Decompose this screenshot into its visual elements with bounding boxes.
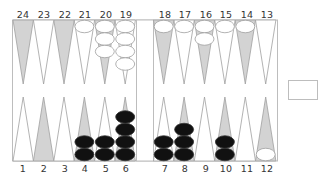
point-2[interactable] bbox=[33, 97, 53, 161]
black-checker-point-8[interactable] bbox=[175, 123, 194, 136]
point-23[interactable] bbox=[33, 20, 53, 84]
black-checker-point-7[interactable] bbox=[154, 136, 173, 149]
black-checker-point-6[interactable] bbox=[116, 123, 135, 136]
point-label-8: 8 bbox=[175, 163, 195, 174]
black-checker-point-10[interactable] bbox=[215, 136, 234, 149]
point-label-6: 6 bbox=[116, 163, 136, 174]
white-checker-point-14[interactable] bbox=[236, 20, 255, 33]
black-checker-point-7[interactable] bbox=[154, 148, 173, 161]
black-checker-point-6[interactable] bbox=[116, 148, 135, 161]
point-24[interactable] bbox=[13, 20, 33, 84]
point-13[interactable] bbox=[256, 20, 276, 84]
point-label-7: 7 bbox=[155, 163, 175, 174]
point-3[interactable] bbox=[54, 97, 74, 161]
white-checker-point-18[interactable] bbox=[154, 20, 173, 33]
white-checker-point-21[interactable] bbox=[75, 20, 94, 33]
black-checker-point-8[interactable] bbox=[175, 136, 194, 149]
white-checker-point-16[interactable] bbox=[195, 33, 214, 46]
point-11[interactable] bbox=[235, 97, 255, 161]
black-checker-point-6[interactable] bbox=[116, 136, 135, 149]
point-9[interactable] bbox=[194, 97, 214, 161]
point-label-10: 10 bbox=[216, 163, 236, 174]
point-22[interactable] bbox=[54, 20, 74, 84]
white-checker-point-19[interactable] bbox=[116, 58, 135, 71]
white-checker-point-20[interactable] bbox=[95, 45, 114, 58]
point-label-5: 5 bbox=[96, 163, 116, 174]
point-label-9: 9 bbox=[196, 163, 216, 174]
white-checker-point-16[interactable] bbox=[195, 20, 214, 33]
backgammon-board: 24 23 22 21 20 19 18 17 16 15 14 13 1 2 … bbox=[0, 0, 327, 181]
point-label-12: 12 bbox=[257, 163, 277, 174]
black-checker-point-5[interactable] bbox=[95, 148, 114, 161]
white-checker-point-12[interactable] bbox=[256, 148, 275, 161]
black-checker-point-5[interactable] bbox=[95, 136, 114, 149]
white-checker-point-17[interactable] bbox=[175, 20, 194, 33]
white-checker-point-19[interactable] bbox=[116, 33, 135, 46]
point-label-1: 1 bbox=[13, 163, 33, 174]
point-label-2: 2 bbox=[34, 163, 54, 174]
white-checker-point-20[interactable] bbox=[95, 33, 114, 46]
white-checker-point-19[interactable] bbox=[116, 45, 135, 58]
black-checker-point-8[interactable] bbox=[175, 148, 194, 161]
black-checker-point-4[interactable] bbox=[75, 148, 94, 161]
black-checker-point-10[interactable] bbox=[215, 148, 234, 161]
black-checker-point-4[interactable] bbox=[75, 136, 94, 149]
point-label-3: 3 bbox=[55, 163, 75, 174]
point-label-11: 11 bbox=[237, 163, 257, 174]
white-checker-point-20[interactable] bbox=[95, 20, 114, 33]
white-checker-point-15[interactable] bbox=[215, 20, 234, 33]
doubling-cube-box[interactable] bbox=[288, 80, 318, 100]
black-checker-point-6[interactable] bbox=[116, 111, 135, 124]
point-1[interactable] bbox=[13, 97, 33, 161]
bar[interactable] bbox=[137, 20, 154, 161]
point-label-4: 4 bbox=[75, 163, 95, 174]
board-graphic bbox=[0, 0, 327, 181]
white-checker-point-19[interactable] bbox=[116, 20, 135, 33]
